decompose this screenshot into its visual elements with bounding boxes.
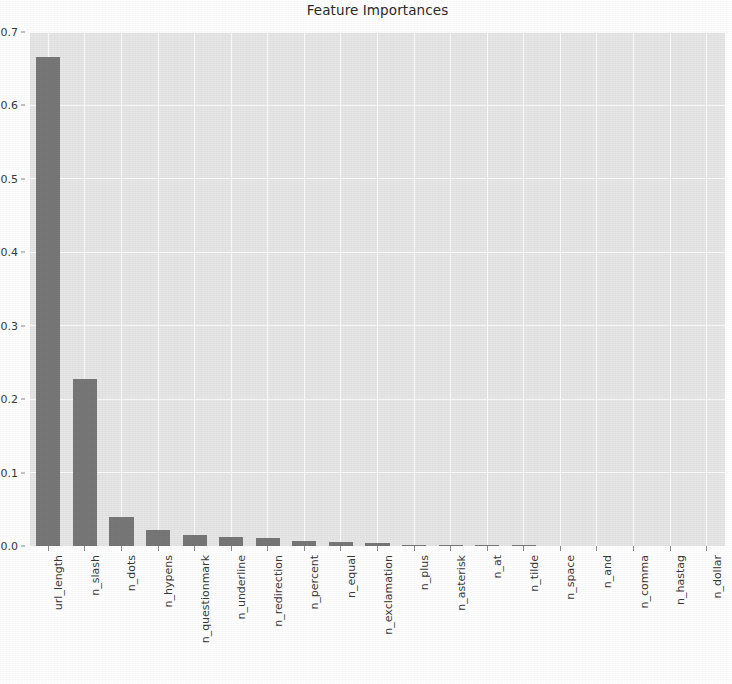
y-tick-label: 0.5	[1, 172, 19, 185]
y-tick-label: 0.6	[1, 99, 19, 112]
x-tick-label: n_exclamation	[382, 555, 395, 635]
x-gridline	[670, 32, 671, 546]
y-tick-label: 0.0	[1, 540, 19, 553]
x-tick-mark	[377, 546, 378, 551]
bar	[146, 530, 170, 546]
x-tick-mark	[84, 546, 85, 551]
y-tick-mark	[21, 472, 25, 473]
x-tick-mark	[633, 546, 634, 551]
x-tick-mark	[523, 546, 524, 551]
x-tick-label: n_plus	[418, 555, 431, 590]
x-tick-label: n_tilde	[528, 555, 541, 592]
x-gridline	[231, 32, 232, 546]
x-tick-mark	[231, 546, 232, 551]
x-tick-label: n_hastag	[674, 555, 687, 605]
x-tick-label: n_hypens	[162, 555, 175, 607]
x-tick-label: n_underline	[235, 555, 248, 620]
x-tick-label: url_length	[52, 555, 65, 610]
bar	[183, 535, 207, 546]
bar	[256, 538, 280, 546]
y-tick-label: 0.2	[1, 393, 19, 406]
chart-title: Feature Importances	[30, 2, 725, 18]
y-axis: 0.00.10.20.30.40.50.60.7	[0, 32, 30, 546]
x-tick-label: n_dots	[125, 555, 138, 591]
y-tick-mark	[21, 32, 25, 33]
bar	[109, 517, 133, 546]
x-gridline	[194, 32, 195, 546]
x-tick-label: n_and	[601, 555, 614, 588]
x-tick-mark	[414, 546, 415, 551]
x-tick-mark	[48, 546, 49, 551]
x-tick-mark	[560, 546, 561, 551]
x-gridline	[487, 32, 488, 546]
x-tick-mark	[158, 546, 159, 551]
x-tick-label: n_dollar	[711, 555, 724, 599]
x-tick-mark	[304, 546, 305, 551]
y-tick-mark	[21, 105, 25, 106]
x-gridline	[377, 32, 378, 546]
x-tick-label: n_asterisk	[455, 555, 468, 611]
x-gridline	[414, 32, 415, 546]
y-tick-mark	[21, 325, 25, 326]
x-axis: url_lengthn_slashn_dotsn_hypensn_questio…	[30, 546, 725, 684]
x-tick-label: n_slash	[89, 555, 102, 596]
y-tick-mark	[21, 178, 25, 179]
x-gridline	[560, 32, 561, 546]
x-gridline	[121, 32, 122, 546]
y-tick-mark	[21, 399, 25, 400]
x-tick-label: n_space	[564, 555, 577, 600]
x-tick-label: n_questionmark	[199, 555, 212, 643]
x-tick-label: n_percent	[308, 555, 321, 610]
x-tick-mark	[340, 546, 341, 551]
x-gridline	[633, 32, 634, 546]
x-tick-mark	[706, 546, 707, 551]
y-tick-mark	[21, 252, 25, 253]
x-tick-mark	[267, 546, 268, 551]
y-tick-label: 0.4	[1, 246, 19, 259]
bar	[73, 379, 97, 546]
x-gridline	[523, 32, 524, 546]
x-gridline	[267, 32, 268, 546]
x-tick-label: n_redirection	[272, 555, 285, 627]
x-tick-label: n_equal	[345, 555, 358, 598]
y-tick-label: 0.3	[1, 319, 19, 332]
x-gridline	[450, 32, 451, 546]
x-tick-mark	[487, 546, 488, 551]
x-tick-mark	[121, 546, 122, 551]
x-tick-mark	[194, 546, 195, 551]
x-tick-mark	[596, 546, 597, 551]
bar	[219, 537, 243, 546]
plot-area	[30, 32, 725, 546]
x-gridline	[158, 32, 159, 546]
y-tick-mark	[21, 546, 25, 547]
x-tick-label: n_comma	[638, 555, 651, 608]
x-gridline	[596, 32, 597, 546]
bar	[36, 57, 60, 546]
x-gridline	[340, 32, 341, 546]
x-tick-mark	[670, 546, 671, 551]
x-tick-label: n_at	[491, 555, 504, 579]
x-tick-mark	[450, 546, 451, 551]
x-gridline	[706, 32, 707, 546]
y-tick-label: 0.7	[1, 26, 19, 39]
x-gridline	[304, 32, 305, 546]
y-tick-label: 0.1	[1, 466, 19, 479]
figure-canvas: Feature Importances 0.00.10.20.30.40.50.…	[0, 0, 732, 684]
